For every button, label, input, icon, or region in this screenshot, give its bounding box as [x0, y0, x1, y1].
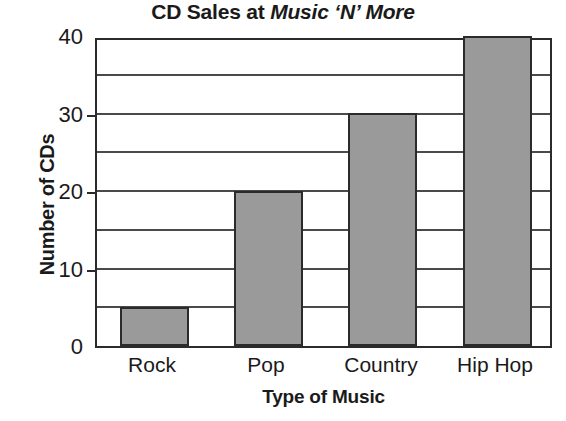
y-tick-label: 30	[23, 104, 83, 126]
y-tick-label: 20	[23, 181, 83, 203]
x-category-label: Rock	[95, 354, 209, 375]
y-tick-mark	[87, 115, 96, 117]
bar-country	[348, 113, 417, 346]
plot-area	[95, 38, 552, 348]
x-axis-title: Type of Music	[95, 386, 552, 408]
x-category-label: Pop	[209, 354, 323, 375]
bar-rock	[120, 307, 189, 346]
x-category-label: Hip Hop	[438, 354, 552, 375]
bar-hip-hop	[463, 36, 532, 346]
bar-pop	[234, 191, 303, 346]
chart-title-prefix: CD Sales at	[151, 0, 270, 23]
chart-title: CD Sales at Music ‘N’ More	[0, 0, 566, 24]
y-tick-label: 40	[23, 26, 83, 48]
y-tick-label: 10	[23, 259, 83, 281]
y-tick-mark	[87, 192, 96, 194]
x-category-label: Country	[324, 354, 438, 375]
y-tick-label: 0	[23, 336, 83, 358]
chart-title-emphasis: Music ‘N’ More	[270, 0, 415, 23]
y-tick-mark	[87, 270, 96, 272]
bar-chart: CD Sales at Music ‘N’ More Number of CDs…	[0, 0, 566, 421]
